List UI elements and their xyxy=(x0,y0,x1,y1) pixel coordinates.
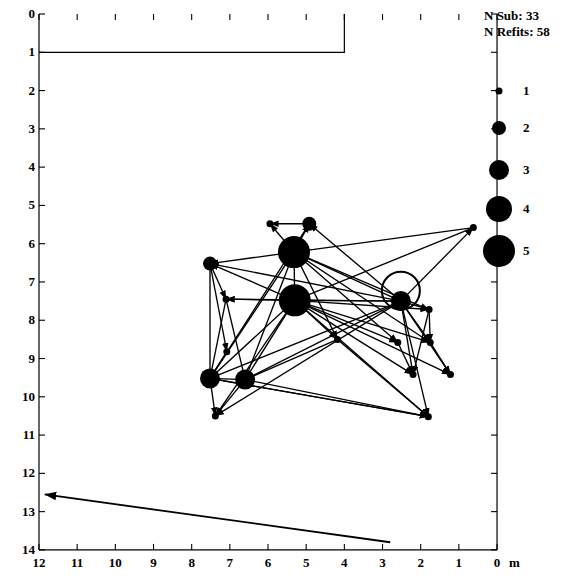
x-tick-0: 0 xyxy=(494,555,501,571)
legend-dot-5 xyxy=(483,235,515,267)
x-tick-3: 3 xyxy=(379,555,386,571)
y-tick-9: 9 xyxy=(29,351,36,367)
refit-node xyxy=(266,220,273,227)
refit-node xyxy=(394,339,401,346)
refit-node xyxy=(302,217,316,231)
x-tick-6: 6 xyxy=(265,555,272,571)
refit-node xyxy=(203,257,217,271)
y-tick-2: 2 xyxy=(29,83,36,99)
refit-node xyxy=(223,348,230,355)
refit-link xyxy=(226,299,401,301)
refit-link xyxy=(215,301,401,416)
x-tick-12: 12 xyxy=(33,555,46,571)
north-arrow-marker xyxy=(45,494,390,542)
n-refits-value: 58 xyxy=(537,24,550,39)
refit-link xyxy=(210,301,401,378)
y-tick-13: 13 xyxy=(22,504,35,520)
legend-label-3: 3 xyxy=(523,162,530,178)
y-tick-12: 12 xyxy=(22,465,35,481)
legend-symbols xyxy=(483,88,515,268)
x-tick-7: 7 xyxy=(227,555,234,571)
refit-node xyxy=(200,368,220,388)
legend-dot-3 xyxy=(489,160,509,180)
north-arrow-shaft xyxy=(45,494,390,542)
n-refits-label: N Refits: xyxy=(484,24,533,39)
legend-label-1: 1 xyxy=(523,83,530,99)
x-tick-1: 1 xyxy=(456,555,463,571)
refit-node xyxy=(391,291,411,311)
plot-canvas xyxy=(0,0,573,584)
y-tick-5: 5 xyxy=(29,197,36,213)
y-tick-6: 6 xyxy=(29,236,36,252)
refit-node xyxy=(410,371,417,378)
refit-node xyxy=(447,371,454,378)
x-tick-5: 5 xyxy=(303,555,310,571)
refit-link xyxy=(294,228,473,252)
refit-map-figure: N Sub: 33 N Refits: 58 01234567891011121… xyxy=(0,0,573,584)
legend-label-4: 4 xyxy=(523,201,530,217)
refit-node xyxy=(427,339,434,346)
y-tick-0: 0 xyxy=(29,6,36,22)
refit-link xyxy=(401,228,474,301)
stats-summary: N Sub: 33 N Refits: 58 xyxy=(484,8,550,40)
x-tick-10: 10 xyxy=(109,555,122,571)
legend-label-5: 5 xyxy=(523,243,530,259)
refit-node xyxy=(212,412,219,419)
legend-label-2: 2 xyxy=(523,120,530,136)
refit-node xyxy=(235,370,255,390)
n-sub-line: N Sub: 33 xyxy=(484,8,550,24)
refit-link xyxy=(215,300,294,416)
refit-link xyxy=(401,301,413,374)
x-tick-9: 9 xyxy=(150,555,157,571)
refit-link xyxy=(245,252,294,379)
y-tick-7: 7 xyxy=(29,274,36,290)
n-refits-line: N Refits: 58 xyxy=(484,24,550,40)
refit-link xyxy=(413,310,429,375)
refit-node xyxy=(426,306,433,313)
refit-node xyxy=(279,284,311,316)
refit-link xyxy=(429,310,430,343)
refit-node xyxy=(425,413,432,420)
refit-node xyxy=(223,296,230,303)
x-tick-4: 4 xyxy=(341,555,348,571)
y-tick-8: 8 xyxy=(29,312,36,328)
legend-dot-1 xyxy=(496,88,503,95)
y-tick-4: 4 xyxy=(29,159,36,175)
refit-node xyxy=(278,236,310,268)
y-tick-11: 11 xyxy=(23,427,35,443)
legend-dot-2 xyxy=(492,121,506,135)
legend-dot-4 xyxy=(486,196,512,222)
refit-link xyxy=(337,339,428,416)
y-tick-3: 3 xyxy=(29,121,36,137)
x-axis-unit-label: m xyxy=(509,555,520,571)
refit-node xyxy=(334,336,341,343)
n-sub-value: 33 xyxy=(526,8,539,23)
x-tick-8: 8 xyxy=(188,555,195,571)
y-tick-1: 1 xyxy=(29,44,36,60)
n-sub-label: N Sub: xyxy=(484,8,523,23)
x-tick-2: 2 xyxy=(417,555,424,571)
axis-lines xyxy=(39,14,497,550)
refit-node xyxy=(470,224,477,231)
y-tick-10: 10 xyxy=(22,389,35,405)
x-tick-11: 11 xyxy=(71,555,83,571)
refit-link xyxy=(245,380,428,417)
